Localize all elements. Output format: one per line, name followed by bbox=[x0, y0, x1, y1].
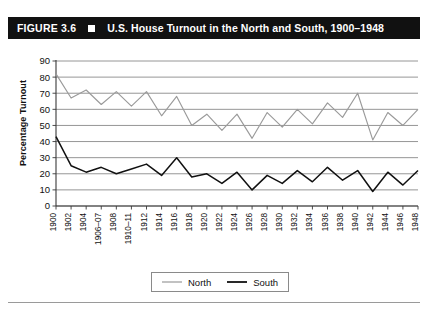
gridlines bbox=[56, 61, 418, 206]
y-tick-label: 60 bbox=[39, 104, 50, 115]
x-tick-label: 1900 bbox=[49, 213, 58, 232]
y-tick-label: 90 bbox=[39, 55, 50, 66]
legend-swatch-south-icon bbox=[227, 279, 247, 285]
x-tick-label: 1930 bbox=[275, 213, 284, 232]
figure-title-bar: FIGURE 3.6 U.S. House Turnout in the Nor… bbox=[8, 17, 420, 39]
x-tick-label: 1926 bbox=[245, 213, 254, 232]
y-tick-label: 80 bbox=[39, 72, 50, 83]
x-tick-label: 1902 bbox=[64, 213, 73, 232]
figure-number-label: FIGURE 3.6 bbox=[17, 22, 76, 34]
x-tick-label: 1916 bbox=[170, 213, 179, 232]
x-tick-label: 1944 bbox=[381, 213, 390, 232]
x-tick-label: 1932 bbox=[290, 213, 299, 232]
filled-square-icon bbox=[88, 25, 95, 32]
x-tick-label: 1942 bbox=[366, 213, 375, 232]
chart-legend: NorthSouth bbox=[151, 272, 289, 292]
y-tick-labels: 0102030405060708090 bbox=[39, 55, 50, 211]
x-tick-label: 1934 bbox=[305, 213, 314, 232]
x-tick-label: 1922 bbox=[215, 213, 224, 232]
legend-entry-north: North bbox=[162, 277, 211, 288]
x-tick-label: 1908 bbox=[109, 213, 118, 232]
x-tick-label: 1914 bbox=[155, 213, 164, 232]
y-tick-label: 20 bbox=[39, 168, 50, 179]
legend-swatch-north-icon bbox=[162, 279, 182, 285]
figure-container: FIGURE 3.6 U.S. House Turnout in the Nor… bbox=[0, 0, 428, 314]
figure-title: U.S. House Turnout in the North and Sout… bbox=[107, 22, 384, 34]
axis-lines bbox=[56, 60, 418, 206]
x-tick-label: 1918 bbox=[185, 213, 194, 232]
x-tick-label: 1928 bbox=[260, 213, 269, 232]
x-tick-label: 1936 bbox=[321, 213, 330, 232]
x-tick-label: 1940 bbox=[351, 213, 360, 232]
legend-label: South bbox=[253, 277, 278, 288]
legend-entry-south: South bbox=[227, 277, 278, 288]
x-tick-label: 1946 bbox=[396, 213, 405, 232]
x-tick-label: 1910–11 bbox=[124, 213, 133, 245]
series-line-north bbox=[56, 74, 418, 140]
y-tick-label: 70 bbox=[39, 88, 50, 99]
x-tick-label: 1904 bbox=[79, 213, 88, 232]
y-tick-label: 30 bbox=[39, 152, 50, 163]
chart-svg: 0102030405060708090 1900190219041906–071… bbox=[0, 44, 428, 274]
x-tick-label: 1920 bbox=[200, 213, 209, 232]
y-tick-label: 50 bbox=[39, 120, 50, 131]
x-tick-label: 1938 bbox=[336, 213, 345, 232]
y-tick-label: 10 bbox=[39, 184, 50, 195]
series-line-south bbox=[56, 137, 418, 192]
x-tick-labels: 1900190219041906–0719081910–111912191419… bbox=[49, 213, 420, 245]
legend-label: North bbox=[188, 277, 211, 288]
x-tick-label: 1948 bbox=[411, 213, 420, 232]
x-tick-label: 1906–07 bbox=[94, 213, 103, 245]
x-tick-label: 1924 bbox=[230, 213, 239, 232]
y-tick-label: 0 bbox=[45, 200, 50, 211]
plot-area: Percentage Turnout 0102030405060708090 1… bbox=[0, 44, 428, 274]
y-tick-label: 40 bbox=[39, 136, 50, 147]
x-tick-label: 1912 bbox=[140, 213, 149, 232]
bottom-divider bbox=[8, 302, 420, 303]
